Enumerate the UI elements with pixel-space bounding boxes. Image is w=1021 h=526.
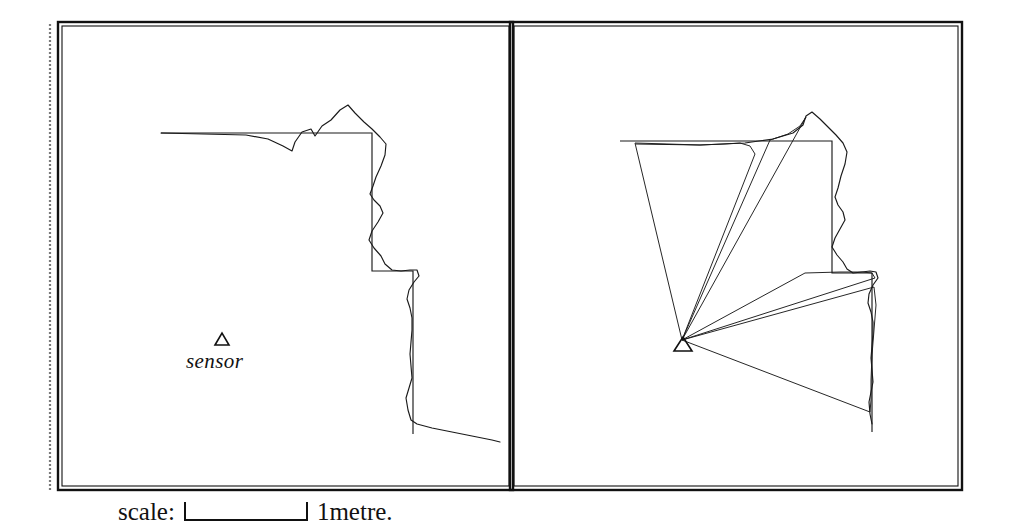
sector-wedge-4 [682, 287, 876, 412]
left-sensor-scan-polyline [161, 105, 500, 442]
sensor-label: sensor [186, 349, 243, 374]
panel-frame-right-outer [510, 22, 962, 490]
right-panel-plot [620, 112, 878, 432]
scale-bar-graphic [184, 502, 308, 521]
right-sensor-scan-polyline [636, 112, 878, 424]
figure-canvas [0, 0, 1021, 526]
scale-bar-row: scale: 1metre. [118, 497, 393, 526]
left-panel-plot [161, 105, 500, 442]
panel-frame-right-inner [514, 26, 958, 486]
figure-root: sensor scale: 1metre. [0, 0, 1021, 526]
scale-caption: scale: [118, 499, 175, 524]
panel-frame-left-inner [62, 26, 509, 486]
panel-frame-left-outer [58, 22, 513, 490]
scale-unit-label: 1metre. [317, 499, 393, 524]
sensor-triangle-icon [215, 333, 229, 345]
sector-wedge-3 [682, 272, 875, 340]
right-ground-truth-polyline [620, 141, 872, 432]
sector-fan-wedges [635, 117, 876, 412]
